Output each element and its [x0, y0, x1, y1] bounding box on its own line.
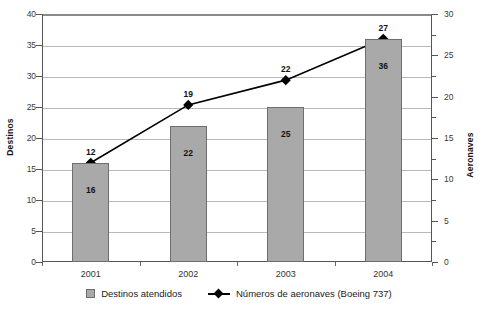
line-point-value-label: 12: [61, 147, 121, 157]
right-axis-tick: [432, 138, 438, 139]
left-axis-tick-label: 30: [10, 72, 36, 80]
bar: [72, 163, 109, 262]
left-axis-tick: [36, 76, 42, 77]
left-axis-tick-label: 5: [10, 227, 36, 235]
right-axis-tick-label: 0: [444, 258, 470, 266]
right-axis-tick: [432, 179, 438, 180]
bar-value-label: 22: [158, 148, 218, 158]
right-axis-tick-label: 20: [444, 93, 470, 101]
combo-chart: 0510152025303540 051015202530 2001200220…: [0, 0, 478, 315]
line-point-value-label: 22: [256, 64, 316, 74]
line-point-value-label: 27: [353, 23, 413, 33]
left-axis-tick-label: 10: [10, 196, 36, 204]
right-axis-tick: [432, 55, 438, 56]
bar-value-label: 36: [353, 61, 413, 71]
legend-label-aeronaves: Números de aeronaves (Boeing 737): [236, 288, 392, 299]
right-axis-minor-tick: [432, 200, 436, 201]
right-axis-minor-tick: [432, 35, 436, 36]
right-axis-tick: [432, 221, 438, 222]
right-axis-title: Aeronaves: [465, 125, 475, 185]
bar: [170, 126, 207, 262]
left-axis-tick: [36, 231, 42, 232]
right-axis-tick-label: 5: [444, 217, 470, 225]
right-axis-tick: [432, 14, 438, 15]
bar: [365, 39, 402, 262]
bar-value-label: 25: [256, 129, 316, 139]
x-axis-tick: [42, 262, 43, 266]
x-axis-tick: [237, 262, 238, 266]
left-axis-tick: [36, 138, 42, 139]
right-axis-minor-tick: [432, 241, 436, 242]
right-axis-tick-label: 30: [444, 10, 470, 18]
x-axis-tick-label: 2004: [335, 269, 431, 279]
legend-item-aeronaves: Números de aeronaves (Boeing 737): [208, 288, 392, 299]
left-axis-tick: [36, 14, 42, 15]
left-axis-tick: [36, 107, 42, 108]
bar-swatch-icon: [86, 289, 95, 298]
right-axis-tick: [432, 97, 438, 98]
right-axis-minor-tick: [432, 117, 436, 118]
left-axis-tick: [36, 200, 42, 201]
x-axis-tick-label: 2002: [140, 269, 236, 279]
line-marker-diamond: [281, 75, 291, 85]
x-axis-tick: [140, 262, 141, 266]
legend-item-destinos: Destinos atendidos: [86, 288, 182, 299]
right-axis-tick-label: 25: [444, 51, 470, 59]
left-axis-title: Destinos: [5, 107, 15, 167]
right-axis-minor-tick: [432, 76, 436, 77]
line-point-value-label: 19: [158, 89, 218, 99]
line-path: [91, 39, 384, 163]
bar-value-label: 16: [61, 185, 121, 195]
left-axis-tick: [36, 169, 42, 170]
line-marker-swatch-icon: [208, 289, 230, 298]
x-axis-tick-label: 2003: [238, 269, 334, 279]
x-axis-tick-label: 2001: [43, 269, 139, 279]
x-axis-tick: [432, 262, 433, 266]
x-axis-tick: [335, 262, 336, 266]
line-marker-diamond: [183, 100, 193, 110]
left-axis-tick: [36, 45, 42, 46]
legend-label-destinos: Destinos atendidos: [101, 288, 182, 299]
left-axis-tick-label: 35: [10, 41, 36, 49]
left-axis-tick-label: 0: [10, 258, 36, 266]
right-axis-minor-tick: [432, 159, 436, 160]
chart-legend: Destinos atendidos Números de aeronaves …: [0, 288, 478, 299]
left-axis-tick-label: 40: [10, 10, 36, 18]
